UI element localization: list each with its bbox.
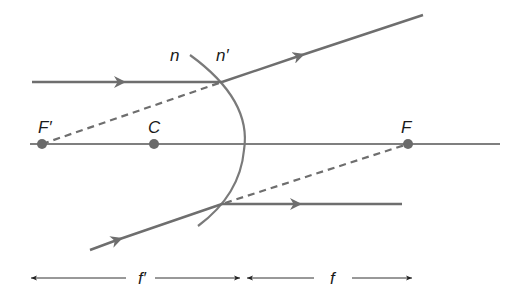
ray-lower-incident — [90, 204, 222, 250]
label-dim-f: f — [330, 269, 337, 288]
label-dim-f-prime: f′ — [138, 269, 147, 288]
point-f — [403, 139, 413, 149]
label-n: n — [170, 46, 179, 65]
label-c: C — [148, 118, 161, 137]
label-n-prime: n′ — [216, 46, 229, 65]
point-c — [149, 139, 159, 149]
label-f-prime: F′ — [38, 118, 52, 137]
virtual-ray-upper — [42, 82, 222, 144]
ray-upper-refracted — [222, 15, 423, 82]
refracting-surface — [190, 55, 245, 226]
virtual-ray-lower — [225, 144, 408, 203]
point-f-prime — [37, 139, 47, 149]
refraction-diagram: n n′ F′ C F f′ f — [0, 0, 529, 307]
label-f: F — [401, 118, 413, 137]
